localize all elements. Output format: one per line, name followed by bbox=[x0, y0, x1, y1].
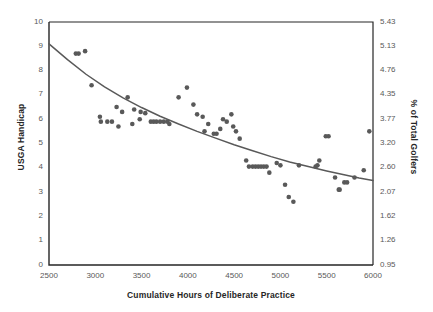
axis-frame bbox=[49, 22, 373, 265]
x-axis-tick-label: 2500 bbox=[29, 271, 69, 280]
y-axis-left-tick-label: 0 bbox=[13, 260, 43, 269]
y-axis-right-tick-label: 3.77 bbox=[380, 114, 420, 123]
y-axis-right-tick-label: 1.62 bbox=[380, 211, 420, 220]
y-axis-right-tick-label: 2.60 bbox=[380, 162, 420, 171]
y-axis-right-tick-label: 5.13 bbox=[380, 41, 420, 50]
x-axis-tick-label: 3000 bbox=[75, 271, 115, 280]
trend-line bbox=[49, 44, 373, 181]
x-axis-title: Cumulative Hours of Deliberate Practice bbox=[49, 290, 373, 300]
y-axis-left-tick-label: 5 bbox=[13, 138, 43, 147]
y-axis-right-tick-label: 3.20 bbox=[380, 138, 420, 147]
y-axis-left-tick-label: 1 bbox=[13, 235, 43, 244]
scatter-points bbox=[74, 49, 372, 204]
y-axis-left-tick-label: 4 bbox=[13, 162, 43, 171]
x-axis-tick-label: 5500 bbox=[307, 271, 347, 280]
y-axis-right-tick-label: 5.43 bbox=[380, 17, 420, 26]
x-axis-tick-label: 3500 bbox=[122, 271, 162, 280]
x-axis-tick-label: 4500 bbox=[214, 271, 254, 280]
y-axis-right-tick-label: 4.35 bbox=[380, 89, 420, 98]
x-axis-tick-label: 4000 bbox=[168, 271, 208, 280]
y-axis-right-tick-label: 0.95 bbox=[380, 260, 420, 269]
y-axis-left-tick-label: 10 bbox=[13, 17, 43, 26]
x-axis-tick-label: 6000 bbox=[353, 271, 393, 280]
y-axis-left-tick-label: 7 bbox=[13, 89, 43, 98]
y-axis-right-tick-label: 1.26 bbox=[380, 235, 420, 244]
y-axis-left-tick-label: 9 bbox=[13, 41, 43, 50]
y-axis-right-tick-label: 2.07 bbox=[380, 187, 420, 196]
chart-container: USGA Handicap % of Total Golfers Cumulat… bbox=[0, 0, 433, 312]
y-axis-left-tick-label: 3 bbox=[13, 187, 43, 196]
y-axis-right-tick-label: 4.76 bbox=[380, 65, 420, 74]
y-axis-left-tick-label: 6 bbox=[13, 114, 43, 123]
y-axis-left-tick-label: 8 bbox=[13, 65, 43, 74]
chart-plot-svg bbox=[0, 0, 433, 312]
x-axis-tick-label: 5000 bbox=[260, 271, 300, 280]
y-axis-left-tick-label: 2 bbox=[13, 211, 43, 220]
